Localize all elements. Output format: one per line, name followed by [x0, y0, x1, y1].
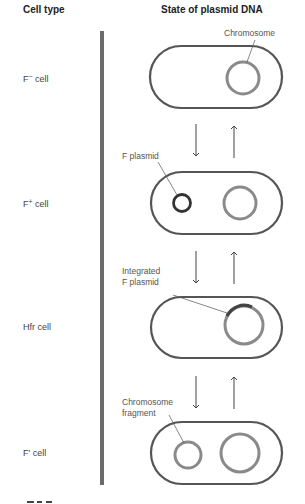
cell-f-plus: [151, 162, 282, 234]
cell-f-prime: [151, 415, 282, 484]
chromosome-circle: [221, 434, 259, 472]
figure-label-fragment: [27, 501, 52, 503]
f-plasmid-circle: [174, 195, 191, 212]
integrated-f-plasmid-arc: [227, 305, 252, 316]
chromosome-circle: [224, 187, 256, 219]
leader-line: [169, 415, 184, 443]
fragment-circle: [175, 442, 201, 468]
transition-arrows-2: [196, 251, 234, 284]
leader-line: [247, 40, 255, 62]
leader-line: [158, 162, 177, 195]
cell-f-minus: [150, 40, 282, 108]
cell-hfr: [151, 295, 282, 358]
transition-arrows-1: [196, 124, 234, 158]
plasmid-diagram: [0, 0, 305, 504]
transition-arrows-3: [196, 376, 234, 409]
chromosome-circle: [227, 62, 259, 94]
divider-bar: [100, 31, 104, 485]
